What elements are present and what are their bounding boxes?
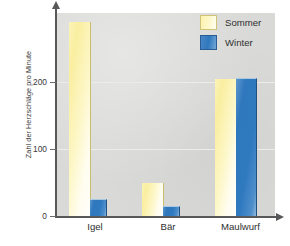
legend-item-sommer: Sommer bbox=[200, 14, 261, 31]
legend-label-sommer: Sommer bbox=[225, 17, 261, 28]
y-tick-label-0: 0 bbox=[7, 211, 47, 221]
x-axis-label-maulwurf: Maulwurf bbox=[208, 221, 273, 232]
bar-maulwurf-winter bbox=[236, 78, 257, 216]
y-tick-label-200: 200 bbox=[7, 77, 47, 87]
legend-swatch-winter-icon bbox=[200, 35, 217, 50]
x-axis-label-igel: Igel bbox=[70, 221, 120, 232]
y-tick-mark-100 bbox=[50, 149, 56, 150]
bar-maulwurf-sommer bbox=[215, 79, 237, 216]
x-axis-line bbox=[55, 216, 277, 218]
bar-baer-sommer bbox=[142, 183, 164, 216]
legend-label-winter: Winter bbox=[225, 37, 253, 48]
bar-baer-winter bbox=[163, 206, 180, 216]
y-axis-line bbox=[55, 8, 57, 217]
x-axis-arrow-icon bbox=[276, 213, 284, 221]
y-axis-title: Zahl der Herzschläge pro Minute bbox=[24, 25, 33, 185]
y-axis-arrow-icon bbox=[52, 1, 60, 9]
bar-igel-winter bbox=[90, 199, 107, 216]
legend-item-winter: Winter bbox=[200, 34, 261, 51]
x-axis-label-baer: Bär bbox=[143, 221, 193, 232]
bar-igel-sommer bbox=[69, 22, 91, 216]
legend: Sommer Winter bbox=[200, 14, 261, 54]
bar-chart: Zahl der Herzschläge pro Minute 200 100 … bbox=[0, 0, 290, 246]
y-tick-mark-0 bbox=[50, 216, 56, 217]
legend-swatch-sommer-icon bbox=[200, 15, 217, 30]
y-tick-mark-200 bbox=[50, 82, 56, 83]
y-tick-label-100: 100 bbox=[7, 144, 47, 154]
